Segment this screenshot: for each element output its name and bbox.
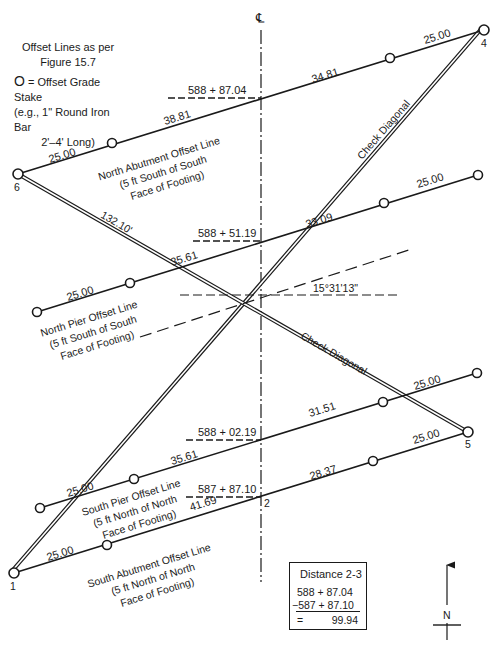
stake-icon: [386, 54, 395, 63]
stake-icon: [13, 169, 23, 179]
centerline-symbol: ℄: [255, 10, 265, 25]
stake-icon: [126, 279, 135, 288]
stake-icon: [474, 171, 483, 180]
north-label: N: [443, 609, 451, 621]
south-abutment-label: South Abutment Offset Line (5 ft North o…: [86, 541, 220, 617]
station-north-pier: 588 + 51.19: [198, 227, 256, 239]
stake-icon: [479, 25, 489, 35]
calc-station-a: 588 + 87.04: [297, 586, 353, 598]
north-abutment-offset-line: [18, 30, 484, 174]
na-dist-left-end: 25.00: [47, 145, 77, 165]
check-diagonal-6-5-label: Check Diagonal: [299, 329, 369, 376]
stake-icon: [103, 541, 112, 550]
stake-icon: [108, 139, 117, 148]
south-pier-offset-line: [40, 373, 477, 508]
na-dist-right: 34.81: [310, 65, 340, 85]
sa-dist-left-end: 25.00: [45, 543, 75, 563]
bridge-layout-diagram: ℄: [0, 0, 497, 647]
point-2-label: 2: [264, 497, 270, 509]
point-1-label: 1: [10, 580, 16, 592]
stake-icon: [369, 457, 378, 466]
calc-equals: =: [297, 614, 303, 626]
north-arrow: N: [433, 565, 461, 640]
na-dist-right-end: 25.00: [422, 26, 452, 46]
sa-dist-left: 41.69: [188, 493, 218, 513]
south-abutment-offset-line: [14, 432, 468, 573]
stake-icon: [9, 568, 19, 578]
stake-icon: [473, 369, 482, 378]
sa-dist-right-end: 25.00: [411, 426, 441, 446]
check-diagonal-6-5: [18, 174, 468, 432]
stake-icon: [379, 398, 388, 407]
calc-station-b: −587 + 87.10: [292, 599, 354, 611]
stake-icon: [130, 475, 139, 484]
sa-dist-right: 28.37: [308, 462, 338, 482]
north-pier-label: North Pier Offset Line (5 ft South of So…: [39, 298, 147, 366]
np-dist-left: 35.61: [169, 248, 199, 268]
distance-calc-box: Distance 2-3 588 + 87.04 −587 + 87.10 = …: [289, 562, 367, 630]
stake-icon: [36, 504, 45, 513]
skew-angle-label: 15°31'13": [313, 282, 358, 294]
north-pier-offset-line: [37, 175, 478, 312]
station-north-abutment: 588 + 87.04: [188, 84, 246, 96]
station-south-pier: 588 + 02.19: [198, 426, 256, 438]
stake-icon: [33, 308, 42, 317]
stake-icon: [463, 427, 473, 437]
stake-icon: [380, 199, 389, 208]
na-dist-left: 38.81: [162, 107, 192, 127]
point-5-label: 5: [465, 438, 471, 450]
np-dist-left-end: 25.00: [65, 283, 95, 303]
sp-dist-right: 31.51: [307, 399, 337, 419]
calc-title: Distance 2-3: [300, 568, 362, 580]
point-4-label: 4: [481, 37, 487, 49]
point-6-label: 6: [14, 181, 20, 193]
station-south-abutment: 587 + 87.10: [198, 483, 256, 495]
check-diagonal-1-4-label: Check Diagonal: [354, 97, 412, 161]
np-dist-right: 33.09: [304, 210, 334, 230]
south-pier-label: South Pier Offset Line (5 ft North of No…: [80, 476, 190, 544]
calc-rule: [296, 611, 360, 612]
calc-result: 99.94: [332, 614, 358, 626]
